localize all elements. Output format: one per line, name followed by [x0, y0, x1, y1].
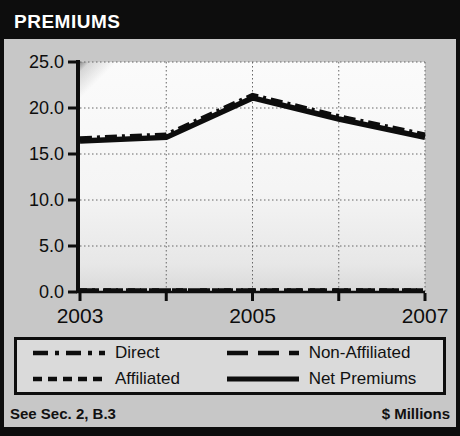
legend-label: Direct [115, 343, 159, 363]
legend-swatch-short-dash [31, 370, 107, 388]
x-tick-label: 2007 [402, 304, 449, 327]
legend-item-non-affiliated: Non-Affiliated [225, 341, 443, 365]
legend: DirectNon-AffiliatedAffiliatedNet Premiu… [14, 337, 446, 395]
chart-title: PREMIUMS [4, 11, 120, 33]
legend-swatch-long-dash [225, 344, 301, 362]
legend-item-direct: Direct [31, 341, 225, 365]
y-tick-label: 20.0 [29, 98, 64, 118]
legend-label: Non-Affiliated [309, 343, 411, 363]
series-direct [80, 95, 425, 138]
chart-region: 0.05.010.015.020.025.0200320052007 [4, 40, 456, 340]
legend-item-net-premiums: Net Premiums [225, 367, 443, 391]
y-tick-label: 10.0 [29, 190, 64, 210]
legend-label: Affiliated [115, 369, 180, 389]
x-tick-label: 2003 [57, 304, 104, 327]
x-tick-label: 2005 [229, 304, 276, 327]
line-chart: 0.05.010.015.020.025.0200320052007 [4, 40, 456, 340]
legend-swatch-dash-dot [31, 344, 107, 362]
footer: See Sec. 2, B.3 $ Millions [10, 402, 450, 424]
y-tick-label: 25.0 [29, 52, 64, 72]
legend-swatch-solid [225, 370, 301, 388]
legend-item-affiliated: Affiliated [31, 367, 225, 391]
y-tick-label: 15.0 [29, 144, 64, 164]
y-tick-label: 0.0 [39, 282, 64, 302]
footnote: See Sec. 2, B.3 [10, 405, 116, 422]
legend-label: Net Premiums [309, 369, 417, 389]
title-bar: PREMIUMS [4, 4, 456, 39]
y-tick-label: 5.0 [39, 236, 64, 256]
chart-panel: PREMIUMS 0.05.010.015.020.025.0200320052… [0, 0, 460, 436]
units-label: $ Millions [382, 405, 450, 422]
